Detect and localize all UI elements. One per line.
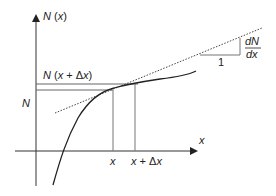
derivative-diagram: N (x) N (x + Δx) N x x + Δx x 1 dN dx — [0, 0, 276, 196]
y-axis-label: N (x) — [43, 10, 67, 22]
function-curve — [53, 71, 196, 185]
lower-level-label: N — [22, 97, 30, 109]
x-plus-dx-tick-label: x + Δx — [130, 155, 162, 167]
slope-numerator: dN — [245, 35, 259, 47]
slope-denominator: dx — [246, 48, 258, 60]
slope-triangle — [200, 38, 240, 55]
x-tick-label: x — [109, 155, 116, 167]
x-axis-label: x — [198, 134, 205, 146]
slope-run-label: 1 — [218, 56, 224, 68]
upper-level-label: N (x + Δx) — [43, 69, 92, 81]
